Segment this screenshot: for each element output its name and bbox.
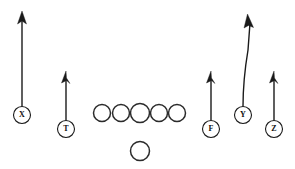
route-z xyxy=(270,71,279,121)
football-play-diagram: XTFYZ xyxy=(0,0,295,169)
player-t: T xyxy=(58,121,75,138)
player-circle xyxy=(266,121,283,138)
backfield-player xyxy=(131,142,150,161)
player-circle xyxy=(14,107,31,124)
arrowhead-icon xyxy=(244,14,254,28)
offensive-lineman xyxy=(131,104,150,123)
player-circle xyxy=(235,107,252,124)
backfield-group xyxy=(131,142,150,161)
route-f xyxy=(207,71,216,121)
route-line xyxy=(243,23,250,107)
offensive-lineman xyxy=(113,105,130,122)
route-y xyxy=(243,14,254,107)
play-canvas: XTFYZ xyxy=(0,0,295,169)
offensive-line-group xyxy=(94,104,186,123)
offensive-lineman xyxy=(94,105,111,122)
player-circle xyxy=(58,121,75,138)
player-f: F xyxy=(203,121,220,138)
offensive-lineman xyxy=(151,105,168,122)
player-y: Y xyxy=(235,107,252,124)
player-z: Z xyxy=(266,121,283,138)
player-x: X xyxy=(14,107,31,124)
player-circle xyxy=(203,121,220,138)
route-x xyxy=(18,11,27,107)
routes-group xyxy=(18,11,279,121)
route-t xyxy=(62,71,71,121)
offensive-lineman xyxy=(169,105,186,122)
